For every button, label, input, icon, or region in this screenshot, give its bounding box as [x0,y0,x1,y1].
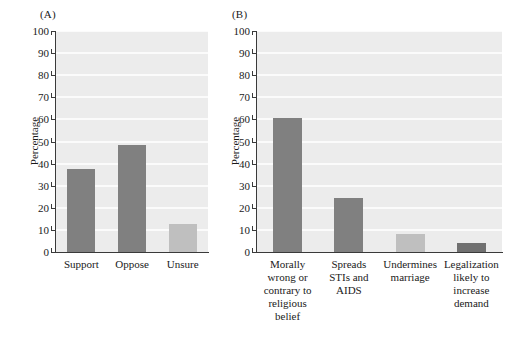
figure-two-panel-bar-charts: (A) Percentage 0102030405060708090100 Su… [0,0,515,338]
y-tick-cap [51,31,52,35]
x-category-label: Support [52,258,110,271]
y-tick-label: 40 [38,158,49,169]
y-tick [51,53,56,54]
y-tick-label: 70 [239,92,250,103]
panel-a-x-axis-line [55,252,209,253]
y-tick [51,119,56,120]
y-tick-label: 40 [239,158,250,169]
y-tick-cap [252,226,253,230]
x-category-label: Spreads STIs and AIDS [318,258,380,297]
x-category-label: Unsure [154,258,212,271]
y-tick [51,252,56,253]
bar [273,118,302,252]
y-tick-label: 50 [239,136,250,147]
y-tick-cap [252,115,253,119]
bar [396,234,425,252]
y-tick [252,230,257,231]
y-tick-label: 30 [239,180,250,191]
y-tick [252,186,257,187]
y-tick [51,164,56,165]
y-tick-cap [51,226,52,230]
y-tick-label: 60 [239,114,250,125]
y-tick-label: 80 [38,70,49,81]
panel-b-x-axis-line [256,252,503,253]
y-tick [51,75,56,76]
y-tick-cap [51,138,52,142]
y-tick-label: 90 [239,48,250,59]
y-tick-label: 100 [234,26,251,37]
gridline [56,96,208,98]
y-tick-label: 70 [38,92,49,103]
y-tick-cap [51,204,52,208]
y-tick [252,164,257,165]
y-tick-label: 0 [44,247,50,258]
y-tick-cap [252,49,253,53]
x-category-label: Undermines marriage [379,258,441,284]
y-tick [252,252,257,253]
y-tick-cap [252,31,253,35]
y-tick-label: 50 [38,136,49,147]
y-tick-label: 20 [239,202,250,213]
y-tick-cap [51,115,52,119]
y-tick-cap [252,93,253,97]
panel-a-plot: 0102030405060708090100 SupportOpposeUnsu… [56,31,208,252]
bar [67,169,95,252]
y-tick [252,119,257,120]
y-tick-label: 20 [38,202,49,213]
y-tick-cap [51,49,52,53]
y-tick [252,97,257,98]
x-category-label: Morally wrong or contrary to religious b… [257,258,319,323]
y-tick-label: 60 [38,114,49,125]
y-tick [51,142,56,143]
y-tick [252,142,257,143]
gridline [56,74,208,76]
y-tick [252,75,257,76]
bar [118,145,146,252]
y-tick [51,208,56,209]
y-tick-label: 10 [239,224,250,235]
y-tick-cap [51,93,52,97]
bar [457,243,486,252]
y-tick-cap [252,138,253,142]
y-tick-cap [51,248,52,252]
y-tick-cap [252,182,253,186]
y-tick-cap [51,160,52,164]
y-tick-cap [252,248,253,252]
gridline [56,52,208,54]
x-category-label: Legalization likely to increase demand [440,258,502,310]
y-tick-label: 0 [245,247,251,258]
panel-a-label: (A) [40,8,56,20]
y-tick-cap [252,160,253,164]
x-category-label: Oppose [103,258,161,271]
y-tick [51,186,56,187]
y-tick-label: 90 [38,48,49,59]
y-tick-label: 80 [239,70,250,81]
bar [334,198,363,252]
gridline [56,141,208,143]
gridline [257,52,502,54]
panel-b: (B) Percentage 0102030405060708090100 Mo… [218,0,515,338]
y-tick-cap [252,204,253,208]
y-tick-label: 10 [38,224,49,235]
panel-b-label: (B) [232,8,247,20]
gridline [257,96,502,98]
y-tick [252,53,257,54]
y-tick-cap [252,71,253,75]
y-tick-cap [51,182,52,186]
bar [169,224,197,252]
gridline [257,31,502,32]
gridline [257,74,502,76]
y-tick [252,208,257,209]
y-tick-label: 30 [38,180,49,191]
panel-b-plot: 0102030405060708090100 Morally wrong or … [257,31,502,252]
y-tick [51,97,56,98]
y-tick-cap [51,71,52,75]
y-tick-label: 100 [33,26,50,37]
gridline [56,31,208,32]
panel-a: (A) Percentage 0102030405060708090100 Su… [0,0,218,338]
gridline [56,118,208,120]
y-tick [51,230,56,231]
